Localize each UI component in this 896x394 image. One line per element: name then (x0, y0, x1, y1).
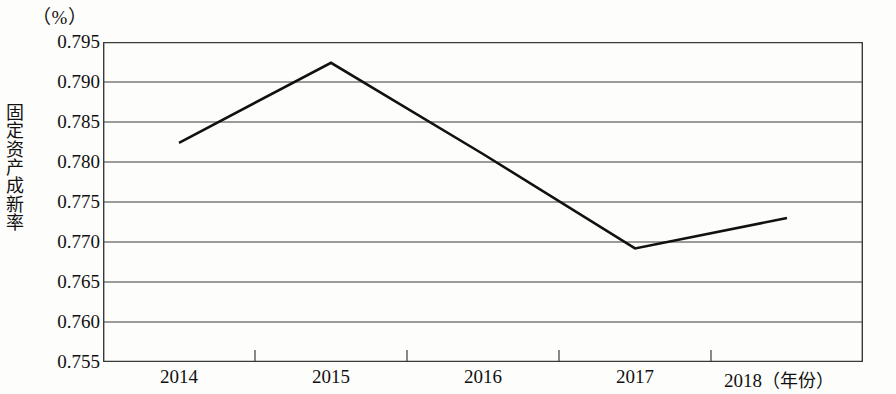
y-axis-tick-label: 0.785 (28, 111, 100, 133)
x-axis-tick-label: 2017 (616, 366, 654, 388)
x-axis-tick-label: 2016 (464, 366, 502, 388)
x-axis-tick-label: 2015 (312, 366, 350, 388)
y-axis-tick-labels: 0.7950.7900.7850.7800.7750.7700.7650.760… (26, 0, 100, 394)
y-axis-tick-label: 0.775 (28, 191, 100, 213)
y-axis-title-char: 定 (2, 122, 28, 140)
plot-area (103, 42, 863, 362)
chart-figure: （%） 固 定 资 产 成 新 率 0.7950.7900.7850.7800.… (0, 0, 896, 394)
y-axis-tick-label: 0.795 (28, 31, 100, 53)
x-axis-unit-label: （年份） (762, 370, 834, 391)
y-axis-title: 固 定 资 产 成 新 率 (2, 104, 28, 233)
x-axis-tick-label: 2018（年份） (724, 366, 834, 392)
data-series-line (179, 63, 787, 249)
gridlines (103, 43, 863, 362)
y-axis-tick-label: 0.755 (28, 351, 100, 373)
y-axis-tick-label: 0.760 (28, 311, 100, 333)
chart-plot-svg (103, 42, 863, 362)
y-axis-tick-label: 0.780 (28, 151, 100, 173)
y-axis-tick-label: 0.765 (28, 271, 100, 293)
y-axis-title-char: 率 (2, 214, 28, 232)
x-axis-tick-label: 2014 (160, 366, 198, 388)
y-axis-tick-label: 0.770 (28, 231, 100, 253)
y-axis-tick-label: 0.790 (28, 71, 100, 93)
x-axis-tick-marks (255, 350, 711, 361)
